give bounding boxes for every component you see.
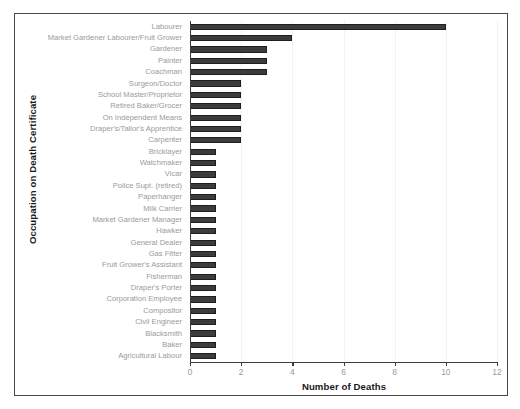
bar-row [190,260,497,271]
category-label: Paperhanger [138,193,182,201]
category-label: Baker [162,341,182,349]
bar[interactable] [190,228,216,234]
bar-row [190,339,497,350]
bar-row [190,328,497,339]
bar-rows [190,21,497,362]
x-tick-mark [446,363,447,366]
x-axis-title: Number of Deaths [190,381,498,392]
category-label: Compositor [143,307,182,315]
x-tick-mark [344,363,345,366]
bar-row [190,237,497,248]
bar[interactable] [190,103,241,109]
x-tick-mark [395,363,396,366]
bar[interactable] [190,137,241,143]
category-label: Blacksmith [145,330,182,338]
x-tick-label: 6 [329,367,359,377]
bar[interactable] [190,115,241,121]
x-tick-label: 0 [175,367,205,377]
bar-row [190,351,497,362]
x-tick-mark [497,363,498,366]
plot-area [190,21,497,362]
bar[interactable] [190,24,446,30]
bar-row [190,169,497,180]
x-tick-label: 2 [226,367,256,377]
bar[interactable] [190,160,216,166]
category-label: Coachman [145,68,182,76]
x-tick-mark [190,363,191,366]
bar-row [190,44,497,55]
bar[interactable] [190,217,216,223]
bar-row [190,66,497,77]
bar[interactable] [190,183,216,189]
category-label: Corporation Employee [106,295,182,303]
bar-row [190,146,497,157]
bar-row [190,123,497,134]
bar-row [190,203,497,214]
bar-row [190,226,497,237]
category-label: Hawker [156,227,182,235]
bar[interactable] [190,46,267,52]
bar[interactable] [190,308,216,314]
bar[interactable] [190,274,216,280]
bar-row [190,192,497,203]
bar[interactable] [190,285,216,291]
bar[interactable] [190,126,241,132]
category-label: Gas Fitter [149,250,182,258]
bar[interactable] [190,205,216,211]
bar[interactable] [190,296,216,302]
bar-row [190,282,497,293]
chart-figure: Occupation on Death Certificate Labourer… [0,0,520,409]
category-label: Milk Carrier [143,205,182,213]
category-label: On Independent Means [103,114,182,122]
category-axis-labels: LabourerMarket Gardener Labourer/Fruit G… [18,21,186,362]
bar-row [190,21,497,32]
category-label: Gardener [150,45,182,53]
bar[interactable] [190,58,267,64]
bar-row [190,78,497,89]
y-axis-spine [190,21,191,363]
bar[interactable] [190,69,267,75]
bar-row [190,135,497,146]
category-label: Draper's Porter [131,284,182,292]
bar[interactable] [190,194,216,200]
category-label: Bricklayer [149,148,182,156]
category-label: School Master/Proprietor [98,91,182,99]
bar[interactable] [190,240,216,246]
bar[interactable] [190,149,216,155]
bar-row [190,214,497,225]
category-label: Market Gardener Labourer/Fruit Grower [48,34,182,42]
category-label: Market Gardener Manager [93,216,182,224]
bar[interactable] [190,262,216,268]
bar[interactable] [190,319,216,325]
bar[interactable] [190,92,241,98]
category-label: Fisherman [146,273,182,281]
x-tick-mark [292,363,293,366]
x-tick-label: 4 [277,367,307,377]
bar-row [190,317,497,328]
bar[interactable] [190,171,216,177]
category-label: Carpenter [148,136,182,144]
category-label: General Dealer [131,239,183,247]
bar-row [190,32,497,43]
bar[interactable] [190,80,241,86]
bar-row [190,112,497,123]
bar[interactable] [190,353,216,359]
category-label: Police Supt. (retired) [113,182,182,190]
bar[interactable] [190,35,292,41]
bar[interactable] [190,342,216,348]
bar[interactable] [190,330,216,336]
bar-row [190,271,497,282]
category-label: Watchmaker [140,159,182,167]
category-label: Retired Baker/Grocer [110,102,182,110]
bar-row [190,101,497,112]
category-label: Fruit Grower's Assistant [102,261,182,269]
x-tick-label: 10 [431,367,461,377]
category-label: Civil Engineer [135,318,182,326]
category-label: Vicar [165,170,182,178]
category-label: Labourer [152,23,182,31]
bar-row [190,294,497,305]
x-tick-mark [241,363,242,366]
bar[interactable] [190,251,216,257]
bar-row [190,55,497,66]
bar-row [190,89,497,100]
